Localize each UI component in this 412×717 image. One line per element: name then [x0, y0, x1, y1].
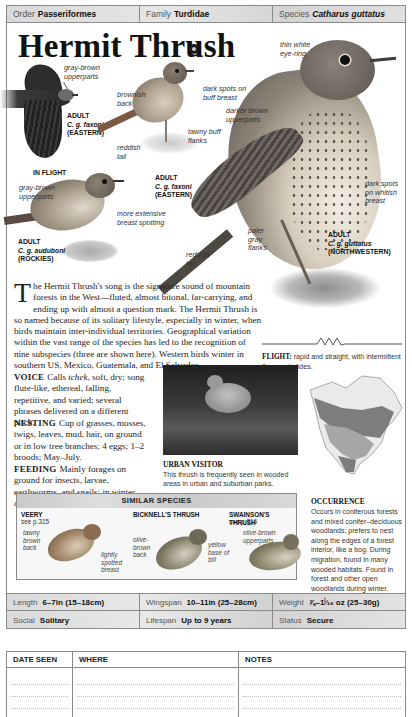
- annotation: reddish tail: [186, 251, 214, 268]
- stat-value: 10–11in (25–28cm): [187, 598, 257, 607]
- annotation: reddish tail: [117, 144, 145, 161]
- write-line[interactable]: [243, 673, 401, 685]
- stat-value: Up to 9 years: [181, 616, 231, 625]
- stat-label: Lifespan: [146, 616, 176, 625]
- caption-line: ADULT: [155, 174, 192, 183]
- caption-line: ADULT: [328, 231, 391, 240]
- stat-label: Status: [279, 616, 302, 625]
- stat-label: Weight: [279, 598, 304, 607]
- urban-visitor-title: URBAN VISITOR: [163, 460, 223, 469]
- stats-row: SocialSolitary LifespanUp to 9 years Sta…: [7, 611, 405, 629]
- write-line[interactable]: [77, 685, 234, 697]
- faxoni-caption: ADULT C. g. faxoni (EASTERN): [155, 174, 192, 200]
- beak-shape: [370, 57, 396, 63]
- field-guide-page: Order Passeriformes Family Turdidae Spec…: [0, 0, 412, 717]
- stat-value: ⅞–1ⁱ⁄₁₆ oz (25–30g): [309, 598, 380, 607]
- audio-speaker-icon[interactable]: [189, 44, 199, 54]
- annotation: darker brown upperparts: [226, 107, 272, 124]
- log-header-where: WHERE: [73, 652, 239, 667]
- write-line[interactable]: [11, 685, 68, 697]
- beak-shape: [72, 94, 78, 96]
- caption-line: ADULT: [67, 112, 104, 121]
- head-shape: [85, 173, 115, 198]
- annotation: olive-brown back: [133, 536, 157, 559]
- annotation: tawny brown back: [23, 529, 49, 552]
- eye-shape: [102, 179, 107, 184]
- annotation: dark spots on whitish breast: [365, 180, 405, 206]
- similar-species-name: BICKNELL'S THRUSH: [133, 511, 200, 519]
- stat-wingspan: Wingspan10–11in (25–28cm): [140, 594, 273, 610]
- photo-bird-head: [207, 375, 223, 389]
- caption-line: (EASTERN): [155, 191, 192, 200]
- log-date-column[interactable]: [7, 668, 73, 717]
- annotation: gray-brown upperparts: [19, 184, 59, 201]
- frame-border-left: [6, 23, 7, 593]
- write-line[interactable]: [11, 673, 68, 685]
- log-where-column[interactable]: [73, 668, 239, 717]
- order-value: Passeriformes: [38, 9, 97, 19]
- breast-spots: [290, 110, 370, 250]
- page-reference-link[interactable]: see p.315: [21, 518, 49, 525]
- stat-weight: Weight⅞–1ⁱ⁄₁₆ oz (25–30g): [273, 594, 405, 610]
- range-map: [302, 368, 406, 480]
- log-body: [7, 668, 405, 717]
- call-text: tchek: [68, 372, 87, 382]
- description-paragraph: The Hermit Thrush's song is the signatur…: [14, 281, 262, 371]
- taxonomy-species: Species Catharus guttatus: [273, 6, 405, 22]
- occurrence-text: Occurs in coniferous forests and mixed c…: [311, 507, 405, 593]
- caption-line: C. g. auduboni: [18, 247, 65, 256]
- bicknell-head-shape: [189, 529, 207, 545]
- in-flight-label: IN FLIGHT: [33, 169, 66, 178]
- description-text: he Hermit Thrush's song is the signature…: [14, 281, 261, 370]
- occurrence-title: OCCURRENCE: [311, 497, 365, 506]
- log-notes-column[interactable]: [239, 668, 405, 717]
- auduboni-caption: ADULT C. g. auduboni (ROCKIES): [18, 238, 65, 264]
- stats-table: Length6–7in (15–18cm) Wingspan10–11in (2…: [6, 593, 406, 629]
- stat-value: Secure: [307, 616, 334, 625]
- page-title: Hermit Thrush: [18, 28, 235, 65]
- section-heading: NESTING: [14, 418, 56, 428]
- head-shape: [163, 62, 187, 84]
- taxonomy-order: Order Passeriformes: [7, 6, 140, 22]
- wing-shape: [24, 100, 62, 158]
- stat-length: Length6–7in (15–18cm): [7, 594, 140, 610]
- drop-cap: T: [14, 282, 31, 304]
- annotation: paler gray flanks: [248, 227, 274, 253]
- caption-line: C. g. guttatus: [328, 240, 391, 249]
- beak-shape: [185, 70, 194, 72]
- guttatus-caption: ADULT C. g. guttatus (NORTHWESTERN): [328, 231, 391, 257]
- stat-value: Solitary: [40, 616, 69, 625]
- eye-shape: [340, 55, 350, 65]
- flight-heading: FLIGHT:: [262, 353, 292, 361]
- page-reference-link[interactable]: see p.316: [229, 518, 257, 525]
- annotation: brownish back: [117, 91, 151, 108]
- frame-border-right: [405, 23, 406, 593]
- caption-line: ADULT: [18, 238, 65, 247]
- caption-line: C. g. faxoni: [155, 183, 192, 192]
- write-line[interactable]: [11, 697, 68, 709]
- write-line[interactable]: [243, 697, 401, 709]
- family-label: Family: [146, 9, 171, 19]
- annotation: lightly spotted breast: [101, 551, 127, 574]
- stat-social: SocialSolitary: [7, 611, 140, 629]
- eye-shape: [175, 69, 179, 73]
- stat-label: Length: [13, 598, 37, 607]
- log-header-notes: NOTES: [239, 652, 405, 667]
- annotation: tawny buff flanks: [188, 128, 228, 145]
- urban-visitor-text: This thrush is frequently seen in wooded…: [163, 470, 301, 488]
- taxonomy-bar: Order Passeriformes Family Turdidae Spec…: [6, 5, 406, 23]
- caption-line: (NORTHWESTERN): [328, 248, 391, 257]
- write-line[interactable]: [77, 697, 234, 709]
- stat-label: Wingspan: [146, 598, 182, 607]
- write-line[interactable]: [243, 685, 401, 697]
- section-text: Calls: [47, 372, 68, 382]
- log-header-date: DATE SEEN: [7, 652, 73, 667]
- annotation: thin white eye-ring: [280, 41, 322, 58]
- stats-row: Length6–7in (15–18cm) Wingspan10–11in (2…: [7, 594, 405, 611]
- write-line[interactable]: [77, 673, 234, 685]
- rock-shape: [270, 268, 380, 308]
- stat-status: StatusSecure: [273, 611, 405, 629]
- similar-species-panel: SIMILAR SPECIES VEERY see p.315 tawny br…: [16, 493, 297, 580]
- swainson-head-shape: [283, 534, 299, 550]
- rock-shape: [62, 240, 118, 262]
